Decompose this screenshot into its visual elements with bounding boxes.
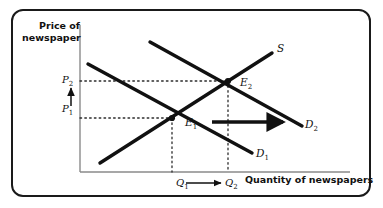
equilibrium-label-e2-text: E [240, 76, 248, 88]
quantity-label-q2-text: Q [225, 177, 233, 188]
y-axis-title: Price of newspaper [22, 20, 80, 43]
price-label-p1-sub: 1 [69, 109, 73, 117]
price-label-p2: P2 [62, 74, 73, 88]
supply-curve-label: S [277, 42, 284, 54]
demand-curve-1 [88, 64, 252, 153]
price-label-p2-sub: 2 [69, 80, 73, 88]
equilibrium-point-e1 [169, 115, 175, 121]
demand-curve-2 [150, 42, 302, 126]
diagram-page: Price of newspaper Quantity of newspaper… [0, 0, 383, 208]
quantity-label-q1-sub: 1 [184, 183, 188, 191]
equilibrium-label-e2-sub: 2 [248, 83, 252, 91]
quantity-label-q2: Q2 [225, 177, 238, 191]
demand-curve-2-label-sub: 2 [313, 125, 317, 133]
price-label-p1: P1 [62, 103, 73, 117]
equilibrium-label-e1-text: E [185, 116, 193, 128]
price-label-p1-text: P [62, 103, 69, 114]
price-label-p2-text: P [62, 74, 69, 85]
equilibrium-label-e1-sub: 1 [193, 123, 197, 131]
supply-curve [100, 53, 272, 163]
x-axis-title: Quantity of newspapers [245, 174, 373, 186]
demand-curve-1-label: D1 [256, 147, 269, 162]
equilibrium-label-e2: E2 [240, 76, 252, 91]
quantity-label-q1-text: Q [176, 177, 184, 188]
supply-curve-label-text: S [277, 42, 284, 54]
quantity-label-q2-sub: 2 [233, 183, 237, 191]
demand-curve-2-label: D2 [305, 118, 318, 133]
quantity-label-q1: Q1 [176, 177, 189, 191]
equilibrium-point-e2 [225, 78, 231, 84]
demand-curve-1-label-sub: 1 [264, 154, 268, 162]
equilibrium-label-e1: E1 [185, 116, 197, 131]
